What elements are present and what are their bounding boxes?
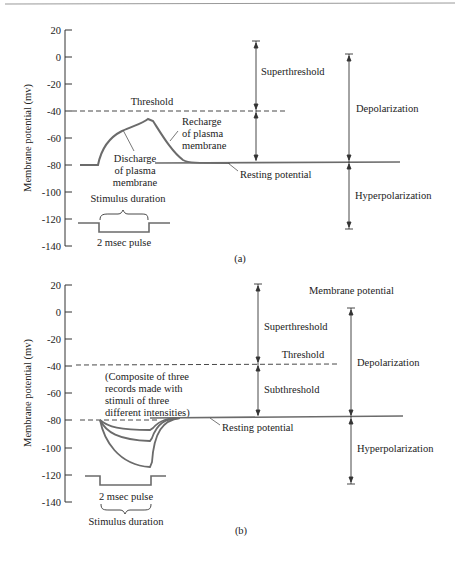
tick-label: -80 <box>47 415 61 426</box>
panel-a-discharge-label: membrane <box>113 177 158 188</box>
panel-a-resting-leader <box>228 163 238 171</box>
panel-b-hyperpolarization-label: Hyperpolarization <box>357 443 434 454</box>
panel-b-composite-note: stimuli of three <box>105 395 169 406</box>
panel-b-y-axis-label: Membrane potential (mv) <box>22 339 34 447</box>
panel-a-y-axis <box>65 30 72 246</box>
panel-b-composite-note: (Composite of three <box>105 371 189 383</box>
tick-label: 20 <box>51 25 62 36</box>
panel-b-polarization-arrow <box>347 308 355 484</box>
panel-b-tick-labels: 20 0 -20 -40 -60 -80 -100 -120 -140 <box>42 280 61 508</box>
panel-b: 20 0 -20 -40 -60 -80 -100 -120 -140 Memb… <box>22 280 434 537</box>
panel-a-recharge-label: Recharge <box>182 116 222 127</box>
panel-b-superthreshold-label: Superthreshold <box>264 321 328 332</box>
tick-label: -40 <box>47 361 61 372</box>
tick-label: -20 <box>47 334 61 345</box>
panel-a-stimulus-pulse <box>78 223 170 232</box>
tick-label: -120 <box>42 214 61 225</box>
panel-a-superthreshold-label: Superthreshold <box>261 66 325 77</box>
panel-a-pulse-label: 2 msec pulse <box>97 237 152 248</box>
panel-b-threshold-arrow <box>254 284 262 416</box>
panel-b-label: (b) <box>235 525 248 537</box>
tick-label: -100 <box>42 443 61 454</box>
tick-label: -60 <box>47 388 61 399</box>
tick-label: -140 <box>42 497 61 508</box>
panel-b-stimulus-duration-label: Stimulus duration <box>89 516 165 527</box>
panel-a-recharge-label: membrane <box>182 140 227 151</box>
panel-a-resting-label: Resting potential <box>240 169 312 180</box>
panel-b-curve-strong <box>100 418 180 467</box>
tick-label: 0 <box>56 307 61 318</box>
panel-a-depolarization-label: Depolarization <box>356 103 419 114</box>
panel-a-recharge-leader <box>170 131 178 141</box>
panel-b-pulse-label: 2 msec pulse <box>99 491 154 502</box>
panel-a-discharge-label: Discharge <box>114 153 157 164</box>
panel-a-y-axis-label: Membrane potential (mv) <box>22 84 34 192</box>
panel-a-threshold-label: Threshold <box>131 96 174 107</box>
panel-a-discharge-label: of plasma <box>114 165 155 176</box>
panel-a-hyperpolarization-label: Hyperpolarization <box>355 190 432 201</box>
tick-label: -40 <box>47 106 61 117</box>
panel-b-depolarization-label: Depolarization <box>357 357 420 368</box>
panel-a-stimulus-duration-label: Stimulus duration <box>91 193 167 204</box>
panel-b-subthreshold-label: Subthreshold <box>264 384 320 395</box>
panel-a-label: (a) <box>234 253 246 265</box>
panel-b-response-curves <box>100 418 180 467</box>
panel-b-threshold-label: Threshold <box>282 349 325 360</box>
panel-b-resting-label: Resting potential <box>222 422 294 433</box>
panel-b-threshold-line <box>76 364 340 365</box>
tick-label: -120 <box>42 470 61 481</box>
panel-a-brace-icon <box>100 210 148 220</box>
panel-a-discharge-leader <box>123 130 134 151</box>
panel-b-title: Membrane potential <box>309 285 394 296</box>
panel-a-superthreshold-arrow <box>252 41 260 161</box>
panel-b-y-axis <box>65 285 72 502</box>
panel-a-tick-labels: 20 0 -20 -40 -60 -80 -100 -120 -140 <box>42 25 61 252</box>
panel-b-stimulus-pulse <box>85 476 166 485</box>
panel-a: 20 0 -20 -40 -60 -80 -100 -120 -140 Memb… <box>22 25 432 265</box>
tick-label: -100 <box>42 187 61 198</box>
tick-label: -80 <box>47 160 61 171</box>
top-rule <box>5 3 455 4</box>
panel-b-resting-leader <box>210 418 220 425</box>
membrane-potential-figure: 20 0 -20 -40 -60 -80 -100 -120 -140 Memb… <box>0 0 459 563</box>
tick-label: -60 <box>47 133 61 144</box>
panel-a-recharge-label: of plasma <box>182 128 223 139</box>
tick-label: -140 <box>42 241 61 252</box>
panel-b-brace-icon <box>101 504 151 514</box>
tick-label: 0 <box>56 52 61 63</box>
tick-label: 20 <box>51 280 62 291</box>
panel-b-composite-note: records made with <box>105 383 183 394</box>
tick-label: -20 <box>47 79 61 90</box>
panel-a-polarization-arrow <box>345 54 353 229</box>
